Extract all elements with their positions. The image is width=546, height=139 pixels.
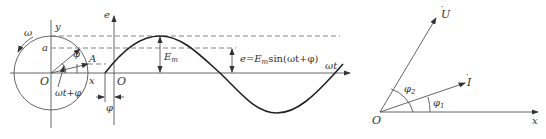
omega-label: ω bbox=[24, 27, 32, 38]
phi-label: φ bbox=[73, 48, 80, 59]
phi1-label: φ1 bbox=[433, 97, 444, 110]
U-vector bbox=[380, 18, 436, 112]
angle-pointer bbox=[58, 66, 64, 87]
omega-rotation-arrow bbox=[18, 37, 33, 52]
I-vector bbox=[380, 83, 465, 112]
I-dot: · bbox=[466, 71, 469, 80]
phi-offset-label: φ bbox=[106, 102, 113, 113]
formula-label: e=Emsin(ωt+φ) bbox=[240, 53, 318, 66]
time-axis-label: ωt bbox=[325, 60, 338, 71]
e-axis-label: e bbox=[104, 9, 110, 20]
Em-label: Em bbox=[163, 51, 178, 64]
right-origin-label: O bbox=[372, 114, 381, 127]
phasor-diagram bbox=[380, 18, 538, 112]
U-dot: · bbox=[441, 3, 444, 12]
origin-circle-label: O bbox=[40, 75, 49, 88]
angle-label: ωt+φ bbox=[55, 87, 82, 98]
x-axis-label: x bbox=[89, 75, 95, 86]
phi2-label: φ2 bbox=[404, 83, 416, 96]
A-label: A bbox=[88, 53, 96, 64]
sine-wave bbox=[105, 36, 343, 113]
right-x-label: x bbox=[532, 115, 538, 126]
a-label: a bbox=[42, 42, 48, 53]
origin-wave-label: O bbox=[117, 75, 126, 88]
phi1-arc bbox=[428, 97, 430, 112]
y-axis-label: y bbox=[54, 21, 61, 32]
